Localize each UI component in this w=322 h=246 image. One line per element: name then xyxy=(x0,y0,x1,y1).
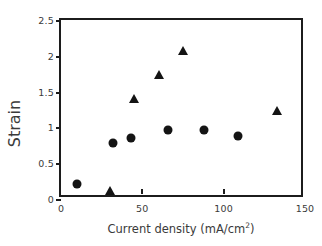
data-point-circle xyxy=(73,179,82,188)
data-point-circle xyxy=(200,125,209,134)
data-point-triangle xyxy=(129,95,139,104)
y-tick-mark xyxy=(56,20,61,22)
data-point-triangle xyxy=(178,46,188,55)
y-axis-title: Strain xyxy=(2,68,28,178)
y-tick-mark xyxy=(56,163,61,165)
data-point-triangle xyxy=(154,70,164,79)
x-axis-title: Current density (mA/cm2) xyxy=(59,222,303,236)
data-point-circle xyxy=(126,134,135,143)
x-tick-label: 100 xyxy=(214,203,233,214)
y-tick-label: 1.5 xyxy=(38,86,54,97)
data-point-triangle xyxy=(105,186,115,195)
chart-figure: Strain 00.511.522.5 050100150 Current de… xyxy=(0,0,322,246)
x-axis-title-base: Current density (mA/cm xyxy=(108,222,246,236)
y-tick-label: 1 xyxy=(48,122,54,133)
x-tick-label: 150 xyxy=(296,203,315,214)
y-tick-label: 2 xyxy=(48,50,54,61)
y-tick-label: 2.5 xyxy=(38,15,54,26)
x-tick-label: 50 xyxy=(136,203,149,214)
y-axis-title-text: Strain xyxy=(6,99,25,146)
y-tick-mark xyxy=(56,199,61,201)
data-point-circle xyxy=(164,125,173,134)
x-axis-title-tail: ) xyxy=(250,222,255,236)
y-tick-label: 0.5 xyxy=(38,158,54,169)
x-tick-label: 0 xyxy=(58,203,64,214)
data-point-circle xyxy=(109,139,118,148)
y-tick-mark xyxy=(56,56,61,58)
y-tick-label: 0 xyxy=(48,194,54,205)
data-point-triangle xyxy=(272,106,282,115)
y-tick-mark xyxy=(56,127,61,129)
y-tick-mark xyxy=(56,92,61,94)
x-tick-mark xyxy=(141,189,143,194)
plot-area: 00.511.522.5 050100150 xyxy=(59,18,303,197)
x-tick-mark xyxy=(223,189,225,194)
data-point-circle xyxy=(234,131,243,140)
